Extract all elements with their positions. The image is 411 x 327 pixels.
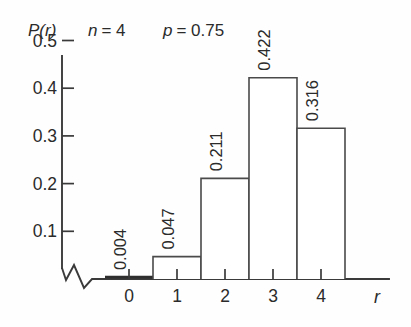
probability-distribution-figure: P(r) n= 4 p= 0.75 0.5 0.4 0.3 0.2 0.1 xyxy=(0,0,411,327)
x-tick-label-1: 1 xyxy=(172,286,182,306)
parameter-p-annotation: p= 0.75 xyxy=(162,21,224,40)
bar-value-label-3: 0.422 xyxy=(255,29,273,70)
bar-value-label-2: 0.211 xyxy=(207,131,225,171)
x-tick-label-2: 2 xyxy=(220,286,230,306)
bar-3 xyxy=(249,78,297,279)
chart-canvas: P(r) n= 4 p= 0.75 0.5 0.4 0.3 0.2 0.1 xyxy=(0,0,411,327)
x-tick-label-3: 3 xyxy=(268,286,278,306)
y-tick-label-0.4: 0.4 xyxy=(33,78,58,98)
bar-value-label-1: 0.047 xyxy=(159,208,177,249)
y-axis-break-icon xyxy=(62,265,105,288)
bar-value-label-4: 0.316 xyxy=(303,80,321,121)
bar-value-label-0: 0.004 xyxy=(111,229,129,270)
bar-2 xyxy=(201,178,249,279)
x-axis-title: r xyxy=(374,287,381,307)
y-tick-label-0.3: 0.3 xyxy=(33,126,57,146)
bar-4 xyxy=(297,128,345,279)
y-tick-label-0.5: 0.5 xyxy=(33,31,57,51)
x-tick-label-0: 0 xyxy=(124,286,134,306)
parameter-n-annotation: n= 4 xyxy=(88,21,126,40)
y-tick-label-0.1: 0.1 xyxy=(33,221,57,241)
x-tick-label-4: 4 xyxy=(316,286,326,306)
y-tick-label-0.2: 0.2 xyxy=(33,174,57,194)
